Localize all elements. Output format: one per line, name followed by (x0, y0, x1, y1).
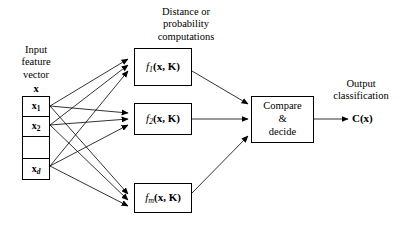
ampersand-line: & (263, 113, 302, 126)
output-c-symbol: C (352, 112, 360, 124)
diagram-canvas: Input feature vector x x1 x2 xd Distance… (0, 0, 405, 228)
input-vector-symbol: x (0, 83, 72, 94)
compare-and-decide-box[interactable]: Compare & decide (251, 96, 314, 143)
function-box-f1[interactable]: f1(x, K) (134, 48, 192, 86)
vector-cell-x2-label: x2 (32, 120, 41, 133)
function-box-f2-label: f2(x, K) (146, 112, 180, 126)
output-classification-value: C(x) (352, 112, 373, 124)
vector-cell-gap[interactable] (23, 137, 49, 159)
input-feature-vector-box: x1 x2 xd (22, 96, 50, 180)
function-box-fm[interactable]: fm(x, K) (134, 183, 192, 213)
decide-line: decide (263, 126, 302, 139)
function-to-decide-edges (192, 71, 248, 193)
vector-cell-xd-label: xd (32, 163, 41, 176)
vector-cell-x1[interactable]: x1 (23, 97, 49, 117)
vector-cell-x1-label: x1 (32, 100, 41, 113)
output-c-argument: (x) (360, 112, 373, 124)
function-box-fm-label: fm(x, K) (145, 191, 181, 205)
vector-cell-xd[interactable]: xd (23, 159, 49, 179)
compare-and-decide-text: Compare & decide (263, 100, 302, 138)
input-feature-vector-label: Input feature vector (0, 44, 72, 81)
compare-line: Compare (263, 100, 302, 113)
output-classification-label: Output classification (318, 78, 404, 103)
vector-cell-x2[interactable]: x2 (23, 117, 49, 137)
function-box-f1-label: f1(x, K) (146, 60, 180, 74)
function-box-f2[interactable]: f2(x, K) (134, 103, 192, 135)
distance-probability-computations-label: Distance or probability computations (132, 6, 240, 43)
